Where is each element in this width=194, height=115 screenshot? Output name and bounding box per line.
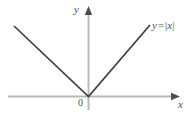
y-axis-label: y <box>74 4 79 15</box>
absolute-value-curve <box>14 25 150 97</box>
absolute-value-graph-figure: y x 0 y=|x| <box>0 0 194 115</box>
equation-equals: = <box>157 19 165 31</box>
y-axis-arrow-icon <box>85 6 92 15</box>
x-axis-label: x <box>178 99 183 110</box>
equation-abs-bar-right: | <box>172 19 174 31</box>
curve-equation-label: y=|x| <box>152 20 174 31</box>
graph-canvas <box>0 0 194 115</box>
origin-label: 0 <box>78 98 83 108</box>
